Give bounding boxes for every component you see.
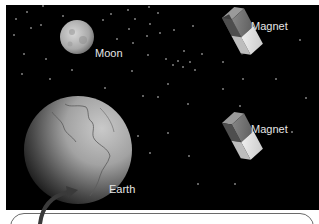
moon <box>60 20 94 54</box>
magnet-top-label: Magnet <box>251 20 288 32</box>
magnet-bottom-label: Magnet <box>251 123 288 135</box>
callout-box <box>10 213 314 224</box>
magnet-bottom <box>220 108 265 163</box>
space-scene: Moon Magnet Magnet Earth <box>6 5 319 210</box>
earth-label: Earth <box>109 183 135 195</box>
scene-graphics <box>6 5 319 210</box>
moon-label: Moon <box>95 47 123 59</box>
